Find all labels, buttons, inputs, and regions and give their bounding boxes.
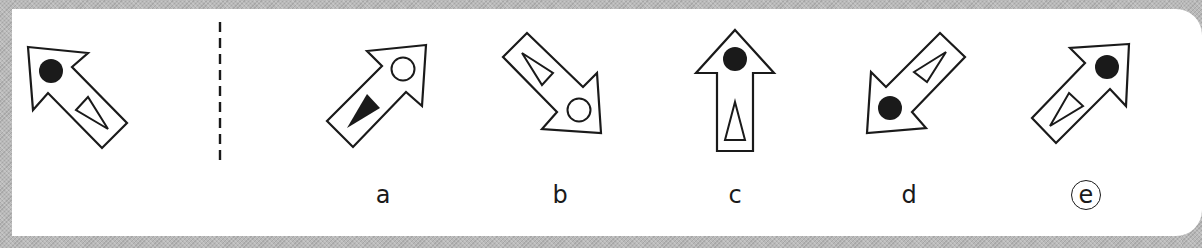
option-label-text: c — [728, 181, 741, 209]
option-d-arrow[interactable] — [867, 33, 965, 133]
option-label-text: a — [376, 181, 391, 209]
option-c-arrow[interactable] — [696, 30, 774, 151]
option-label-text: d — [901, 181, 916, 209]
filled-circle-icon — [39, 59, 63, 83]
option-label-text: b — [552, 181, 567, 209]
arrow-outline-icon — [867, 33, 965, 133]
arrow-outline-icon — [28, 47, 127, 148]
option-a-arrow[interactable] — [327, 45, 426, 147]
option-e-arrow[interactable] — [1032, 44, 1129, 143]
option-label-d[interactable]: d — [889, 178, 929, 212]
filled-circle-icon — [1095, 55, 1119, 79]
option-label-a[interactable]: a — [363, 178, 403, 212]
filled-circle-icon — [723, 47, 747, 71]
option-label-b[interactable]: b — [540, 178, 580, 212]
hollow-circle-icon — [392, 58, 415, 81]
selected-answer-circle: e — [1071, 180, 1101, 210]
hollow-circle-icon — [568, 99, 591, 122]
question-arrow — [28, 47, 127, 148]
option-label-c[interactable]: c — [715, 178, 755, 212]
filled-circle-icon — [878, 96, 902, 120]
option-label-e-selected[interactable]: e — [1066, 178, 1106, 212]
option-b-arrow[interactable] — [503, 33, 601, 133]
